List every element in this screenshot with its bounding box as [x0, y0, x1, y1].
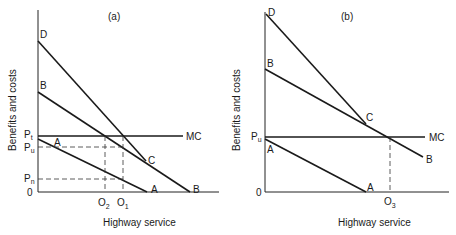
panel-a-tick-Pt: Pt	[24, 129, 33, 141]
panel-b-label-D: D	[268, 7, 275, 18]
panel-a-tick-O2: O2	[98, 197, 110, 210]
panel-a-tick-Pu: Pu	[24, 142, 35, 154]
panel-a-x-axis-label: Highway service	[103, 217, 176, 228]
panel-b-x-axis-label: Highway service	[338, 217, 411, 228]
panel-b-label-A-top: A	[267, 144, 274, 155]
panel-a-label-C: C	[148, 155, 155, 166]
panel-b: (b) Benefits and costs Highway service 0…	[231, 7, 449, 228]
panel-a-title: (a)	[108, 11, 120, 22]
panel-a-label-A-top: A	[54, 137, 61, 148]
panel-a-origin-label: 0	[27, 187, 33, 198]
panel-a-label-B-end: B	[193, 184, 200, 195]
panel-a-curve-B	[38, 92, 190, 192]
panel-a-label-MC: MC	[186, 131, 202, 142]
panel-b-title: (b)	[341, 11, 353, 22]
panel-b-tick-O3: O3	[384, 196, 396, 209]
panel-b-label-B-end: B	[426, 154, 433, 165]
diagram-canvas: (a) Benefits and costs Highway service 0…	[0, 0, 456, 235]
panel-b-label-C: C	[366, 112, 373, 123]
panel-a-label-D: D	[40, 29, 47, 40]
panel-b-label-MC: MC	[429, 132, 445, 143]
panel-b-curve-A	[265, 139, 366, 192]
panel-a-tick-O1: O1	[117, 197, 129, 210]
panel-b-y-axis-label: Benefits and costs	[231, 69, 242, 151]
panel-b-label-B-top: B	[267, 58, 274, 69]
panel-b-curve-B	[265, 69, 423, 157]
panel-b-curve-D	[266, 14, 366, 124]
panel-a: (a) Benefits and costs Highway service 0…	[7, 10, 219, 228]
panel-b-origin-label: 0	[256, 187, 262, 198]
panel-b-tick-Pu: Pu	[251, 131, 262, 143]
panel-a-label-B-top: B	[40, 80, 47, 91]
panel-a-y-axis-label: Benefits and costs	[7, 69, 18, 151]
panel-a-label-A-end: A	[151, 184, 158, 195]
panel-a-tick-Pn: Pn	[24, 173, 35, 185]
panel-b-label-A-end: A	[367, 182, 374, 193]
